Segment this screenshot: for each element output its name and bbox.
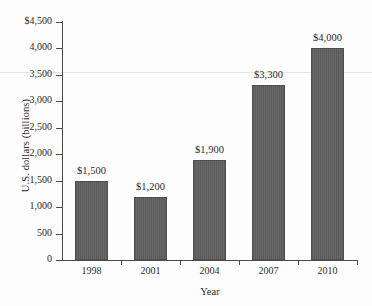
y-axis-tick [56, 181, 62, 182]
bar-value-label: $1,900 [175, 144, 245, 155]
x-axis-title: Year [62, 286, 358, 297]
y-axis-line [62, 21, 63, 261]
bar-value-label: $3,300 [234, 69, 304, 80]
y-axis-tick [56, 75, 62, 76]
x-axis-tick-label: 1998 [62, 265, 122, 276]
x-axis-tick-label: 2004 [180, 265, 240, 276]
x-axis-tick-label: 2010 [298, 265, 358, 276]
y-axis-tick [56, 128, 62, 129]
y-axis-tick-label: 0 [0, 253, 52, 264]
y-axis-tick [56, 101, 62, 102]
y-axis-tick-label: 3,000 [0, 94, 52, 105]
y-axis-tick [56, 22, 62, 23]
y-axis-tick-label: 1,500 [0, 174, 52, 185]
y-axis-tick-label: 500 [0, 227, 52, 238]
bar [311, 48, 344, 260]
y-axis-tick-label: 3,500 [0, 68, 52, 79]
y-axis-tick-label: 2,500 [0, 121, 52, 132]
bar-value-label: $1,500 [57, 165, 127, 176]
y-axis-tick [56, 207, 62, 208]
y-axis-tick [56, 154, 62, 155]
y-axis-tick [56, 234, 62, 235]
bar [193, 160, 226, 260]
y-axis-tick-label: 2,000 [0, 147, 52, 158]
y-axis-tick-label: $4,500 [0, 15, 52, 26]
y-axis-tick-label: 4,000 [0, 41, 52, 52]
y-axis-tick-label: 1,000 [0, 200, 52, 211]
x-axis-tick-label: 2007 [239, 265, 299, 276]
y-axis-tick [56, 260, 62, 261]
x-axis-tick-label: 2001 [121, 265, 181, 276]
bar-value-label: $1,200 [116, 181, 186, 192]
bar [134, 197, 167, 260]
bar-chart: U.S. dollars (billions) 05001,0001,5002,… [0, 0, 372, 306]
y-axis-tick [56, 48, 62, 49]
bar-value-label: $4,000 [293, 32, 363, 43]
x-axis-line [62, 260, 358, 261]
bar [75, 181, 108, 260]
bar [252, 85, 285, 260]
